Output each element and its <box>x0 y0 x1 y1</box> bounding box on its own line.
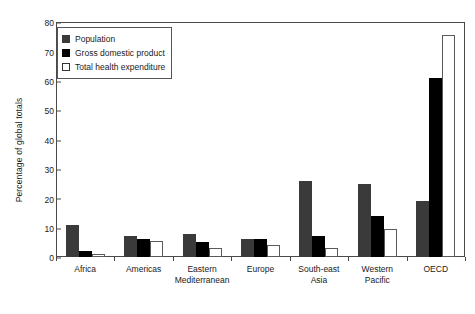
bar <box>299 181 312 257</box>
bar <box>371 216 384 257</box>
legend-item: Gross domestic product <box>62 46 165 60</box>
bar <box>241 239 254 257</box>
bar <box>209 248 222 257</box>
legend-item: Population <box>62 32 165 46</box>
x-axis-label: Eastern Mediterranean <box>173 264 231 286</box>
bar-group <box>241 22 280 257</box>
x-axis-tick-mark <box>407 257 408 261</box>
x-axis-label: Europe <box>231 264 289 275</box>
bar <box>358 184 371 257</box>
bar <box>196 242 209 257</box>
bar <box>92 254 105 257</box>
legend-swatch-population <box>62 35 70 43</box>
legend-swatch-gdp <box>62 49 70 57</box>
x-axis-tick-mark <box>114 257 115 261</box>
bar <box>267 245 280 257</box>
chart-legend: PopulationGross domestic productTotal he… <box>57 27 172 79</box>
bar-group <box>416 22 455 257</box>
x-axis-tick-mark <box>465 257 466 261</box>
x-axis-label: Africa <box>56 264 114 275</box>
bar <box>254 239 267 257</box>
bar <box>124 236 137 257</box>
legend-item-label: Population <box>75 35 115 44</box>
bar <box>325 248 338 257</box>
x-axis-label: Americas <box>114 264 172 275</box>
x-axis-tick-mark <box>231 257 232 261</box>
legend-item: Total health expenditure <box>62 60 165 74</box>
bar <box>150 241 163 257</box>
legend-item-label: Gross domestic product <box>75 49 165 58</box>
y-axis-title: Percentage of global totals <box>14 50 28 250</box>
bar <box>183 234 196 258</box>
bar-chart: Percentage of global totals 010203040506… <box>0 0 475 314</box>
legend-swatch-health-expenditure <box>62 63 70 71</box>
bar <box>312 236 325 257</box>
bar <box>137 239 150 257</box>
x-axis-label: OECD <box>407 264 465 275</box>
bar-group <box>299 22 338 257</box>
x-axis-tick-mark <box>56 257 57 261</box>
x-axis-tick-mark <box>348 257 349 261</box>
bar <box>442 35 455 257</box>
x-axis-label: Western Pacific <box>348 264 406 286</box>
bar-group <box>358 22 397 257</box>
bar <box>416 201 429 257</box>
x-axis-label: South-east Asia <box>290 264 348 286</box>
bar-group <box>183 22 222 257</box>
bar <box>429 78 442 257</box>
bar <box>384 229 397 257</box>
legend-item-label: Total health expenditure <box>75 63 165 72</box>
y-axis-tick-mark <box>57 258 61 259</box>
bar <box>79 251 92 257</box>
x-axis-tick-mark <box>173 257 174 261</box>
bar <box>66 225 79 257</box>
x-axis-tick-mark <box>290 257 291 261</box>
